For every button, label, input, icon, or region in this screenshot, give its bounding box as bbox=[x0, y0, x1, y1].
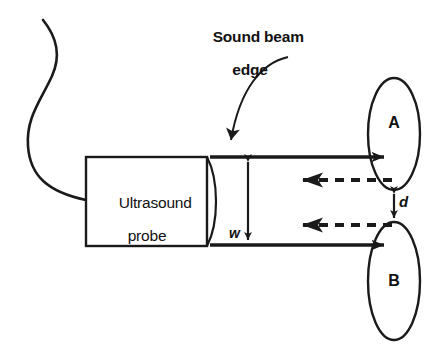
sound-beam-edge-line-1: Sound beam bbox=[213, 28, 304, 45]
separation-symbol-label: d bbox=[399, 194, 408, 210]
sound-beam-edge-line-2: edge bbox=[185, 62, 315, 79]
ultrasound-probe-label: Ultrasound probe bbox=[90, 178, 204, 278]
probe-label-line-1: Ultrasound bbox=[119, 194, 192, 211]
probe-cable bbox=[28, 20, 86, 200]
sound-beam-edge-label: Sound beam edge bbox=[185, 12, 315, 112]
reflector-a-ellipse bbox=[368, 78, 420, 190]
probe-lens-face bbox=[207, 157, 216, 246]
ultrasound-beam-diagram: Sound beam edge Ultrasound probe w d A B bbox=[0, 0, 441, 354]
beam-width-symbol-label: w bbox=[229, 226, 240, 241]
reflector-b-label: B bbox=[380, 272, 408, 289]
reflector-a-label: A bbox=[380, 114, 408, 131]
probe-label-line-2: probe bbox=[90, 228, 204, 245]
